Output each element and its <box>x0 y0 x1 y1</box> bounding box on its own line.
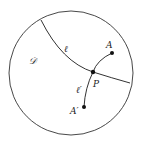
point-p <box>91 70 95 74</box>
point-a <box>110 51 114 55</box>
point-a-label: A <box>105 40 113 50</box>
geodesic-l-prime-label: ℓ′ <box>76 85 82 95</box>
disk-label: 𝒟 <box>29 56 38 66</box>
point-a-prime-label: A′ <box>69 106 79 116</box>
geodesic-l-label: ℓ <box>64 44 68 54</box>
geodesic-l <box>41 20 130 83</box>
hyperbolic-disk-diagram: 𝒟 ℓ ℓ′ A P A′ <box>0 0 142 144</box>
boundary-circle <box>9 11 133 135</box>
point-a-prime <box>82 105 86 109</box>
point-p-label: P <box>92 79 100 89</box>
